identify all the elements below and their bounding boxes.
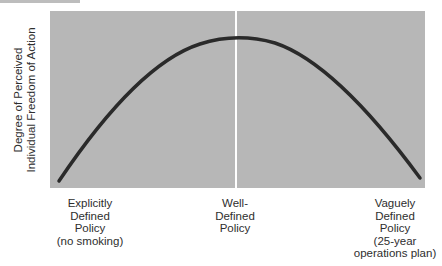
label-line: (25-year (345, 235, 442, 248)
label-line: Explicitly (56, 197, 124, 210)
x-label-vague-policy: Vaguely Defined Policy (25-year operatio… (345, 197, 442, 260)
y-axis-label: Degree of Perceived Individual Freedom o… (12, 0, 44, 200)
label-line: Policy (56, 222, 124, 235)
label-line: Policy (345, 222, 442, 235)
label-line: Defined (345, 210, 442, 223)
label-line: Policy (210, 222, 260, 235)
y-axis-label-line2: Individual Freedom of Action (25, 0, 38, 200)
label-line: (no smoking) (56, 235, 124, 248)
x-label-well-defined-policy: Well- Defined Policy (210, 197, 260, 235)
label-line: Vaguely (345, 197, 442, 210)
x-label-explicit-policy: Explicitly Defined Policy (no smoking) (56, 197, 124, 247)
label-line: Defined (56, 210, 124, 223)
label-line: operations plan) (345, 247, 442, 260)
label-line: Well- (210, 197, 260, 210)
y-axis-label-line1: Degree of Perceived (12, 0, 25, 200)
label-line: Defined (210, 210, 260, 223)
freedom-curve (59, 38, 420, 181)
